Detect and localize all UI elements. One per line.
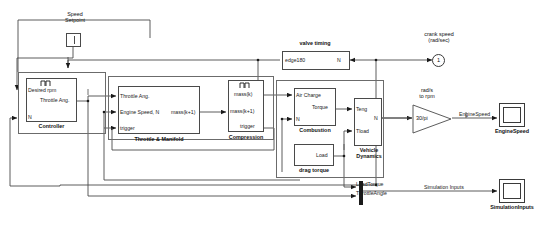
compression-trigger-icon [239,81,253,89]
compression-in-trigger: trigger [240,124,255,129]
controller-block-name: Controller [26,124,77,130]
gain-caption: rad/s to rpm [404,88,450,100]
gain-value: 30/pi [416,116,428,121]
controller-in-desired-rpm: Desired rpm [28,88,56,93]
crank-speed-caption: crank speed (rad/sec) [404,32,474,44]
simulation-inputs-scope-name: SimulationInputs [480,205,544,211]
controller-in-n: N [28,115,32,120]
drag-torque-block[interactable] [294,144,334,166]
throttle-manifold-block-name: Throttle & Manifold [118,137,200,143]
vehicle-dynamics-block-name: Vehicle Dynamics [348,148,390,159]
throttle-manifold-in-trigger: trigger [120,126,135,131]
vehicle-dynamics-in-tload: Tload [356,129,369,134]
step-source-icon [69,36,75,44]
controller-trigger-icon [40,79,54,87]
combustion-block-name: Combustion [291,128,339,134]
drag-torque-block-name: drag torque [289,168,339,174]
throttle-manifold-out-mass: mass(k+1) [171,110,195,115]
vehicle-dynamics-out-n: N [374,116,378,121]
throttle-manifold-in-engine-speed: Engine Speed, N [120,110,159,115]
crank-speed-caption-line2: (rad/sec) [428,37,449,43]
scope-screen-icon [503,183,521,199]
compression-block-name: Compression [220,135,272,141]
simulation-inputs-scope-block[interactable] [499,179,525,203]
combustion-out-torque: Torque [312,105,328,110]
combustion-in-n: N [296,117,300,122]
compression-out-mass-k: mass(k) [234,92,252,97]
compression-in-mass-k1: mass(k+1) [230,109,254,114]
speed-setpoint-label-line2: Setpoint [65,17,85,23]
crank-speed-outport[interactable]: 1 [432,54,445,67]
engine-speed-scope-name: EngineSpeed [484,129,540,135]
valve-timing-out-edge180: edge180 [285,58,305,63]
speed-setpoint-label: Speed Setpoint [53,12,97,24]
controller-out-throttle-ang: Throttle Ang. [40,98,69,103]
combustion-in-air-charge: Air Charge [296,93,321,98]
gain-caption-line2: to rpm [419,93,434,99]
mux-block[interactable] [359,181,363,205]
simulation-inputs-signal-label: Simulation Inputs [424,185,464,190]
valve-timing-in-n: N [337,58,341,63]
engine-speed-signal-label: EngineSpeed [459,112,490,117]
vehicle-dynamics-name-line2: Dynamics [356,153,381,159]
scope-screen-icon [503,107,521,123]
valve-timing-block-name: valve timing [280,41,350,47]
vehicle-dynamics-in-teng: Teng [356,107,367,112]
drag-torque-out-load: Load [316,153,328,158]
engine-speed-scope-block[interactable] [499,103,525,127]
simulink-diagram-canvas: Speed Setpoint Desired rpm N Throttle An… [0,0,558,237]
speed-setpoint-block[interactable] [66,33,81,47]
throttle-manifold-in-throttle-ang: Throttle Ang. [120,94,149,99]
